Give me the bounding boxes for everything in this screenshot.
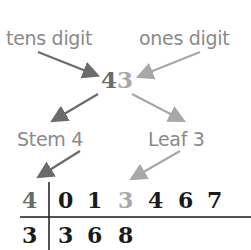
stem-value: 3: [22, 222, 37, 248]
leaf-value: 0: [58, 187, 73, 213]
leaf-value: 1: [87, 187, 102, 213]
arrow-stem4-icon: [40, 151, 80, 176]
leaf-value: 8: [118, 222, 133, 248]
leaf-value: 6: [178, 187, 193, 213]
stem-row-3: 3 3 6 8: [0, 222, 251, 250]
arrow-tens-icon: [38, 52, 96, 75]
leaf-value: 3: [58, 222, 73, 248]
stem-value: 4: [22, 187, 37, 213]
arrow-leaf3-icon: [133, 151, 180, 178]
arrow-ones-icon: [140, 52, 200, 76]
stem-leaf-diagram: tens digit ones digit 4 3 Stem 4 Leaf 3 …: [0, 0, 251, 250]
leaf-value-highlighted: 3: [118, 187, 133, 213]
stem-row-4: 4 0 1 3 4 6 7: [0, 187, 251, 215]
leaf-value: 7: [207, 187, 222, 213]
leaf-value: 6: [87, 222, 102, 248]
arrow-stem-icon: [54, 94, 98, 120]
arrow-leaf-icon: [132, 94, 182, 120]
leaf-value: 4: [148, 187, 163, 213]
